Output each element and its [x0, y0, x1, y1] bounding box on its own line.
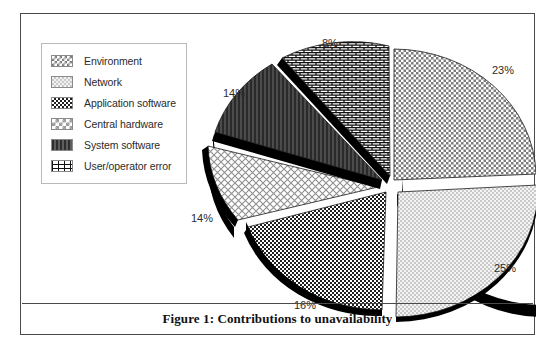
legend-item-network[interactable]: Network: [42, 71, 186, 92]
legend-swatch-central-hardware: [51, 118, 73, 130]
pie-label-centralhw: 14%: [191, 212, 213, 224]
pie-label-syssoftware: 14%: [223, 87, 245, 99]
pie-svg: [186, 22, 536, 322]
pie-label-usererror: 8%: [322, 37, 338, 49]
pie-label-environment: 23%: [492, 64, 514, 76]
page-frame: 23% 25% 16% 14% 14% 8% Environment Netwo…: [20, 13, 535, 335]
pie-label-network: 25%: [494, 262, 516, 274]
legend-label-user-operator-error: User/operator error: [84, 160, 171, 172]
legend-item-application-software[interactable]: Application software: [42, 92, 186, 113]
legend-swatch-system-software: [51, 139, 73, 151]
pie-slice-environment[interactable]: [394, 49, 536, 180]
legend-swatch-network: [51, 76, 73, 88]
figure-screenshot: 23% 25% 16% 14% 14% 8% Environment Netwo…: [0, 0, 555, 356]
legend-label-environment: Environment: [84, 55, 142, 67]
legend-swatch-application-software: [51, 97, 73, 109]
legend-item-central-hardware[interactable]: Central hardware: [42, 113, 186, 134]
legend-swatch-environment: [51, 55, 73, 67]
pie-chart: 23% 25% 16% 14% 14% 8%: [186, 22, 536, 322]
pie-slice-network[interactable]: [396, 185, 536, 322]
figure-area: 23% 25% 16% 14% 14% 8% Environment Netwo…: [21, 14, 534, 334]
legend-item-system-software[interactable]: System software: [42, 134, 186, 155]
pie-slice-environment-face[interactable]: [394, 49, 536, 180]
legend-label-application-software: Application software: [84, 97, 176, 109]
pie-slice-network-face[interactable]: [396, 185, 536, 317]
pie-label-appsoftware: 16%: [294, 299, 316, 311]
legend-item-user-operator-error[interactable]: User/operator error: [42, 155, 186, 176]
legend-swatch-user-operator-error: [51, 160, 73, 172]
figure-caption: Figure 1: Contributions to unavailabilit…: [21, 311, 534, 327]
legend-label-system-software: System software: [84, 139, 160, 151]
caption-divider: [22, 303, 533, 304]
legend: Environment Network Application software…: [41, 43, 187, 184]
legend-item-environment[interactable]: Environment: [42, 50, 186, 71]
legend-label-network: Network: [84, 76, 122, 88]
legend-label-central-hardware: Central hardware: [84, 118, 163, 130]
